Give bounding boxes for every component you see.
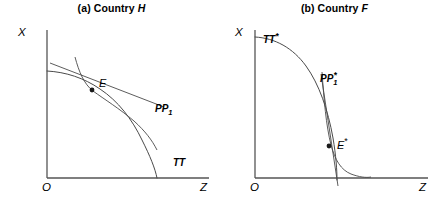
panel-a-equilibrium-dot [90,88,95,93]
panel-a-equilibrium-label: E [99,77,106,89]
panel-a-ppf-label: TT [173,157,185,168]
panel-a-price-line-subscript: 1 [168,108,172,117]
panel-b-equilibrium-label: E* [337,136,348,151]
panel-a-price-line-label: PP1 [155,103,173,117]
panel-country-f: (b) Country F X O Z E* PP1* TT* [223,0,446,206]
panel-b-price-line-superscript: * [334,70,337,80]
panel-b-y-axis-label: X [235,26,243,38]
panel-b-equilibrium-superscript: * [344,136,348,146]
panel-b-price-line-label: PP1* [320,70,337,87]
panel-b-indifference-curve [322,72,371,177]
panel-b-ppf-label: TT* [263,31,279,45]
panel-b-price-line-label-text: PP [320,73,333,84]
panel-b-origin-label: O [250,181,259,193]
panel-b-ppf-label-text: TT [263,34,275,45]
panel-a-origin-label: O [42,181,51,193]
panel-a-x-axis-label: Z [200,181,207,193]
panel-b-plot [223,0,446,206]
panel-a-indifference-curve [75,57,157,150]
panel-b-x-axis-label: Z [419,181,426,193]
panel-b-ppf-superscript: * [275,31,278,41]
panel-a-plot [0,0,223,206]
panel-a-y-axis-label: X [18,26,26,38]
panel-b-equilibrium-dot [327,144,332,149]
panel-country-h: (a) Country H X O Z E PP1 TT [0,0,223,206]
panel-b-ppf-curve [255,37,337,180]
panel-a-price-line-label-text: PP [155,103,168,114]
figure-container: (a) Country H X O Z E PP1 TT (b) Country… [0,0,446,206]
